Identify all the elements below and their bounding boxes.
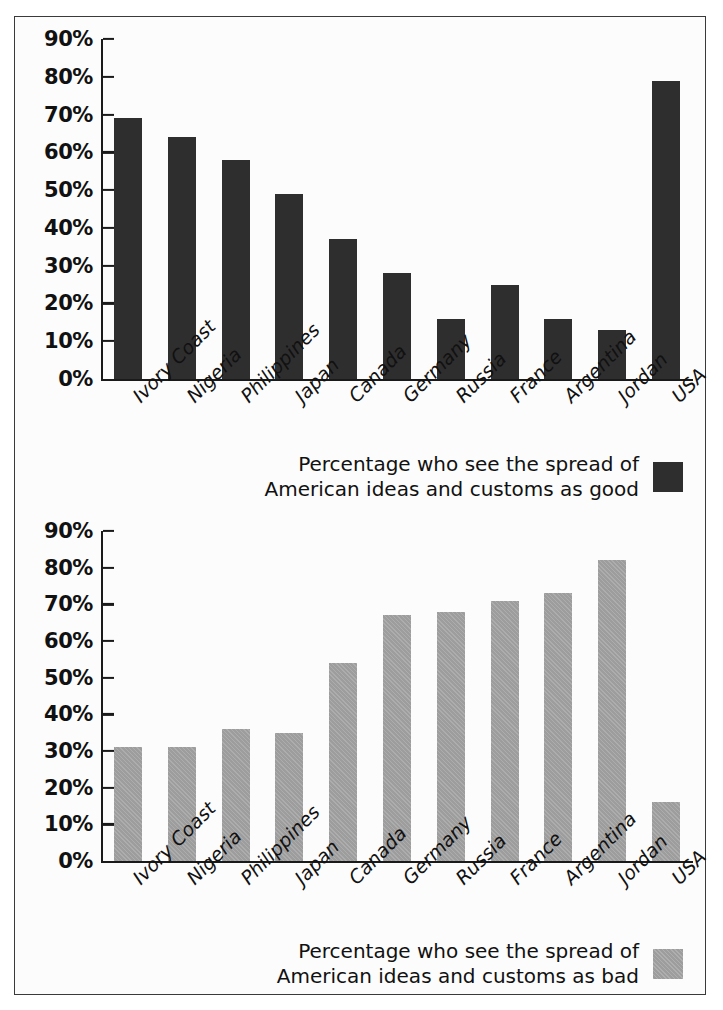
y-axis-tick-mark xyxy=(103,38,114,40)
bar-canada xyxy=(329,239,357,379)
y-axis-tick-mark xyxy=(103,677,114,679)
y-axis-tick-label: 70% xyxy=(44,592,93,616)
y-axis-tick-mark xyxy=(103,823,114,825)
y-axis-tick-label: 60% xyxy=(44,140,93,164)
y-axis-tick-label: 0% xyxy=(58,849,93,873)
plot-area-good: 0%10%20%30%40%50%60%70%80%90% Ivory Coas… xyxy=(15,17,707,377)
bar-slot xyxy=(437,39,465,379)
bar-slot xyxy=(544,39,572,379)
y-axis-tick-label: 0% xyxy=(58,367,93,391)
y-axis-tick-label: 20% xyxy=(44,776,93,800)
bar-slot xyxy=(329,39,357,379)
y-axis-tick-label: 90% xyxy=(44,519,93,543)
legend-swatch-bad xyxy=(653,949,683,979)
legend-good: Percentage who see the spread of America… xyxy=(265,452,683,501)
y-axis-tick-mark xyxy=(103,530,114,532)
y-axis-tick-mark xyxy=(103,603,114,605)
y-axis-tick-mark xyxy=(103,713,114,715)
y-axis-tick-mark xyxy=(103,340,114,342)
figure-border: 0%10%20%30%40%50%60%70%80%90% Ivory Coas… xyxy=(14,16,706,995)
y-axis-tick-mark xyxy=(103,265,114,267)
bar-canada xyxy=(329,663,357,861)
bar-slot xyxy=(222,39,250,379)
y-axis-tick-label: 40% xyxy=(44,216,93,240)
y-axis-tick-label: 60% xyxy=(44,629,93,653)
y-axis-tick-mark xyxy=(103,640,114,642)
y-axis-tick-mark xyxy=(103,302,114,304)
y-axis-tick-mark xyxy=(103,227,114,229)
y-axis-tick-mark xyxy=(103,76,114,78)
y-axis-tick-label: 70% xyxy=(44,103,93,127)
bar-slot xyxy=(114,39,142,379)
bar-argentina xyxy=(544,593,572,861)
bar-slot xyxy=(652,39,680,379)
y-axis-labels-bad: 0%10%20%30%40%50%60%70%80%90% xyxy=(21,509,93,859)
y-axis-tick-mark xyxy=(103,189,114,191)
chart-panel-bad: 0%10%20%30%40%50%60%70%80%90% Ivory Coas… xyxy=(15,509,707,994)
bar-ivory-coast xyxy=(114,747,142,861)
y-axis-tick-label: 40% xyxy=(44,702,93,726)
y-axis-tick-mark xyxy=(103,113,114,115)
bar-france xyxy=(491,601,519,861)
plot-area-bad: 0%10%20%30%40%50%60%70%80%90% Ivory Coas… xyxy=(15,509,707,859)
y-axis-tick-label: 80% xyxy=(44,556,93,580)
bar-slot xyxy=(329,531,357,861)
y-axis-tick-label: 10% xyxy=(44,329,93,353)
x-axis-spine-good xyxy=(101,379,693,381)
bar-slot xyxy=(383,531,411,861)
legend-bad: Percentage who see the spread of America… xyxy=(277,939,683,988)
chart-panel-good: 0%10%20%30%40%50%60%70%80%90% Ivory Coas… xyxy=(15,17,707,509)
bar-slot xyxy=(222,531,250,861)
y-axis-tick-label: 50% xyxy=(44,666,93,690)
y-axis-tick-mark xyxy=(103,787,114,789)
bar-slot xyxy=(491,39,519,379)
y-axis-tick-label: 30% xyxy=(44,254,93,278)
y-axis-tick-mark xyxy=(103,151,114,153)
legend-swatch-good xyxy=(653,462,683,492)
bar-ivory-coast xyxy=(114,118,142,379)
x-axis-spine-bad xyxy=(101,861,693,863)
bar-slot xyxy=(383,39,411,379)
y-axis-tick-label: 90% xyxy=(44,27,93,51)
legend-label-good: Percentage who see the spread of America… xyxy=(265,452,639,501)
y-axis-tick-label: 10% xyxy=(44,812,93,836)
bar-slot xyxy=(652,531,680,861)
y-axis-tick-label: 30% xyxy=(44,739,93,763)
y-axis-tick-mark xyxy=(103,750,114,752)
y-axis-tick-label: 80% xyxy=(44,65,93,89)
legend-label-bad: Percentage who see the spread of America… xyxy=(277,939,639,988)
y-axis-tick-mark xyxy=(103,567,114,569)
y-axis-tick-label: 50% xyxy=(44,178,93,202)
bar-slot xyxy=(544,531,572,861)
bar-usa xyxy=(652,81,680,379)
y-axis-labels-good: 0%10%20%30%40%50%60%70%80%90% xyxy=(21,17,93,377)
bar-slot xyxy=(491,531,519,861)
bar-slot xyxy=(114,531,142,861)
y-axis-tick-label: 20% xyxy=(44,291,93,315)
